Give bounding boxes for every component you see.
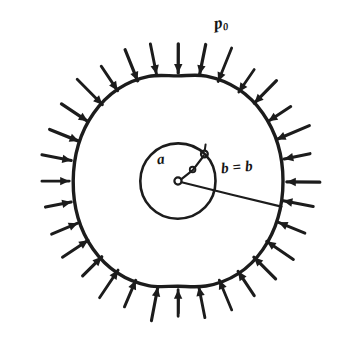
inner-radius-symbol: a <box>156 151 165 168</box>
outer-radius-value-symbol: b <box>244 158 253 175</box>
pressure-arrow-head-icon <box>174 290 182 299</box>
center-marker-icon <box>174 177 181 184</box>
inner-radius-label: a <box>156 152 165 168</box>
diagram-canvas <box>0 0 347 351</box>
inner-boundary-circle-group <box>140 143 215 218</box>
inner-radius-end-tick <box>205 144 206 150</box>
outer-radius-label: b=b <box>220 159 253 177</box>
center-marker-group <box>174 177 181 184</box>
pressure-arrow-head-icon <box>60 177 69 185</box>
outer-radius-symbol: b <box>220 160 229 177</box>
external-pressure-label: p0 <box>213 13 230 34</box>
outer-radius-line <box>182 182 282 206</box>
outer-radius-equals-sign: = <box>232 159 242 176</box>
outer-boundary-circle-group <box>73 75 283 287</box>
pressure-vessel-diagram: p0 a b=b <box>0 0 347 351</box>
inner-radius-dimension-group <box>181 144 207 179</box>
inner-boundary-circle <box>140 143 215 218</box>
pressure-arrow-head-icon <box>287 178 296 186</box>
outer-boundary-circle <box>73 75 283 287</box>
outer-radius-dimension-group <box>182 182 282 206</box>
pressure-arrow-head-icon <box>174 64 182 73</box>
